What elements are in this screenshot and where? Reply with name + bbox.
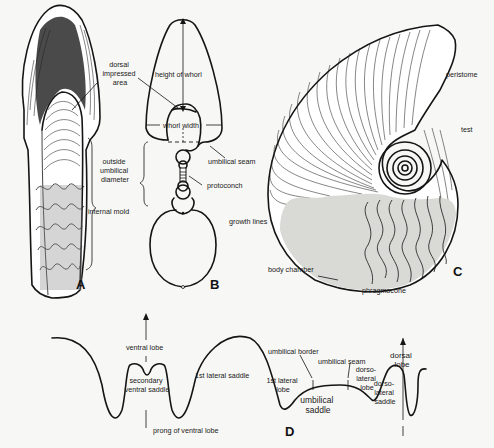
label-prong-of-ventral-lobe: prong of ventral lobe (153, 426, 219, 435)
panel-letter-c: C (453, 264, 463, 279)
label-dorsal-impressed-area: dorsal impressed area (102, 60, 137, 87)
panel-c-shell (268, 25, 458, 292)
label-growth-lines: growth lines (229, 217, 268, 226)
label-body-chamber: body chamber (268, 265, 314, 274)
panel-b-cross-section (138, 18, 225, 289)
label-secondary-ventral-saddle: secondary ventral saddle (125, 376, 170, 394)
label-1st-lateral-lobe: 1st lateral lobe (266, 376, 299, 394)
label-1st-lateral-saddle: 1st lateral saddle (195, 371, 249, 380)
label-outside-umbilical-diameter: outside umbilical diameter (100, 157, 130, 184)
label-height-of-whorl: height of whorl (155, 70, 202, 79)
label-umbilical-border: umbilical border (268, 347, 319, 356)
label-umbilical-saddle: umbilical saddle (300, 395, 335, 415)
ammonoid-diagram: dorsal impressed area outside umbilical … (0, 0, 494, 448)
label-test: test (461, 125, 473, 134)
label-whorl-width: whorl width (162, 121, 199, 130)
panel-letter-a: A (76, 277, 86, 292)
panel-a-shell (22, 5, 100, 298)
label-phragmocone: phragmocone (362, 286, 406, 295)
label-peristome: peristome (446, 70, 478, 79)
label-dorso-lateral-saddle: dorso- lateral saddle (374, 379, 396, 406)
diagram-canvas: dorsal impressed area outside umbilical … (0, 0, 494, 448)
label-umbilical-seam: umbilical seam (208, 157, 256, 166)
label-ventral-lobe: ventral lobe (126, 343, 163, 352)
label-dorsal-lobe: dorsal lobe (390, 351, 414, 369)
label-internal-mold: internal mold (88, 207, 129, 216)
panel-letter-d: D (285, 424, 294, 439)
panel-letter-b: B (210, 277, 219, 292)
label-protoconch: protoconch (207, 181, 243, 190)
